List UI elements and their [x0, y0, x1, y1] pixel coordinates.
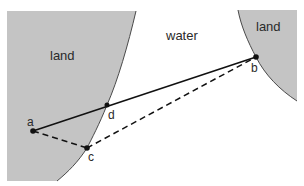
- left-land-region: [7, 11, 136, 181]
- right-land-label: land: [256, 19, 281, 34]
- point-b-marker: [253, 54, 259, 60]
- point-b-label: b: [251, 61, 258, 75]
- diagram-canvas: land water land a d c b: [0, 0, 304, 186]
- point-a-marker: [30, 128, 36, 134]
- water-label: water: [165, 28, 198, 43]
- point-c-label: c: [88, 150, 94, 164]
- point-d-label: d: [108, 108, 115, 122]
- point-d-marker: [105, 103, 110, 108]
- left-land-label: land: [50, 48, 75, 63]
- point-a-label: a: [27, 115, 34, 129]
- diagram-svg: land water land a d c b: [0, 0, 304, 186]
